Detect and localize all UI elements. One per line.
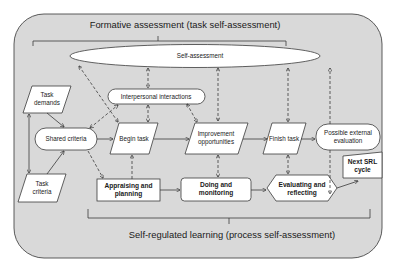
svg-text:Doing and: Doing and	[200, 181, 232, 189]
svg-text:monitoring: monitoring	[199, 189, 233, 197]
svg-text:Interpersonal interactions: Interpersonal interactions	[121, 93, 192, 101]
svg-text:Finish task: Finish task	[269, 135, 300, 142]
self-regulated-learning-caption: Self-regulated learning (process self-as…	[129, 229, 335, 240]
svg-text:Self-assessment: Self-assessment	[177, 52, 224, 59]
svg-text:Task: Task	[36, 180, 50, 187]
self-assessment-node: Self-assessment	[70, 45, 320, 68]
svg-text:demands: demands	[34, 99, 60, 106]
svg-text:Appraising and: Appraising and	[105, 182, 153, 190]
svg-text:evaluation: evaluation	[334, 137, 363, 144]
svg-text:Evaluating and: Evaluating and	[279, 181, 326, 189]
improvement-opportunities-node: Improvement opportunities	[185, 123, 248, 154]
svg-text:cycle: cycle	[354, 166, 371, 174]
svg-text:opportunities: opportunities	[198, 138, 234, 146]
doing-monitoring-node: Doing and monitoring	[181, 178, 251, 201]
svg-text:Improvement: Improvement	[198, 130, 235, 138]
evaluating-reflecting-node: Evaluating and reflecting	[267, 175, 337, 201]
srl-diagram: Formative assessment (task self-assessme…	[0, 0, 395, 270]
svg-text:Next SRL: Next SRL	[348, 158, 377, 165]
svg-text:planning: planning	[115, 190, 142, 198]
svg-text:reflecting: reflecting	[287, 189, 317, 197]
shared-criteria-node: Shared criteria	[35, 128, 97, 150]
possible-external-evaluation-node: Possible external evaluation	[316, 124, 380, 150]
svg-text:Begin task: Begin task	[119, 135, 149, 143]
svg-text:Possible external: Possible external	[324, 129, 372, 136]
formative-assessment-caption: Formative assessment (task self-assessme…	[90, 19, 281, 30]
svg-text:criteria: criteria	[33, 188, 52, 195]
next-srl-cycle-node: Next SRL cycle	[343, 152, 382, 178]
svg-text:Shared criteria: Shared criteria	[46, 135, 87, 142]
svg-text:Task: Task	[41, 91, 55, 98]
appraising-planning-node: Appraising and planning	[97, 179, 160, 201]
interpersonal-interactions-node: Interpersonal interactions	[108, 89, 205, 104]
